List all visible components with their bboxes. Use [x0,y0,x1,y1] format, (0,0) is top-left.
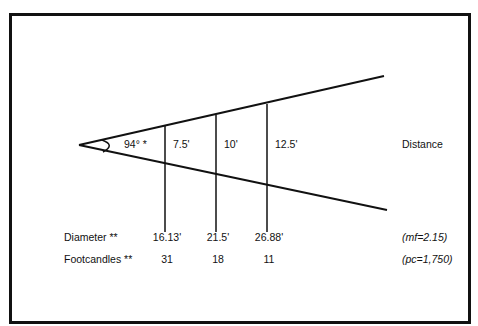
diameter-value-2: 21.5' [207,231,229,243]
angle-label: 94° * [124,138,147,150]
footcandles-row-label: Footcandles ** [64,253,132,265]
distance-label-1: 7.5' [173,138,190,150]
distance-label-2: 10' [224,138,238,150]
diameter-row-label: Diameter ** [64,231,118,243]
footcandles-value-2: 18 [212,253,224,265]
beam-spread-diagram [0,0,478,326]
beam-lower-edge [79,145,387,210]
beam-upper-edge [79,76,384,145]
distance-axis-label: Distance [402,138,443,150]
mf-note: (mf=2.15) [402,231,447,243]
footcandles-value-1: 31 [161,253,173,265]
diameter-value-3: 26.88' [255,231,283,243]
footcandles-value-3: 11 [264,253,275,265]
pc-note: (pc=1,750) [402,253,453,265]
diameter-value-1: 16.13' [153,231,181,243]
distance-label-3: 12.5' [275,138,297,150]
